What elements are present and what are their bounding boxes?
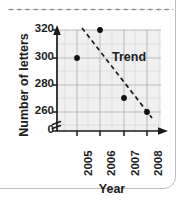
y-axis-title: Number of letters [17, 33, 31, 137]
chart-card: 320 300 280 260 0 2005 2006 2007 2008 Tr… [0, 0, 190, 205]
x-axis-arrowhead [158, 127, 168, 135]
x-tick-label: 2008 [152, 150, 164, 176]
data-point [74, 55, 80, 61]
data-point [121, 95, 127, 101]
plot-background [57, 30, 161, 131]
y-tick-label: 280 [35, 77, 54, 89]
y-tick-label: 300 [35, 50, 54, 62]
data-point [97, 27, 103, 33]
x-tick-label: 2007 [129, 150, 141, 176]
x-tick-label: 2006 [105, 150, 117, 176]
data-point [144, 109, 150, 115]
y-tick-label: 320 [35, 22, 54, 34]
x-tick-label: 2005 [82, 150, 94, 176]
x-axis-title: Year [60, 182, 164, 196]
y-tick-label: 0 [48, 123, 54, 135]
trend-line-label: Trend [112, 50, 146, 64]
scatter-chart: 320 300 280 260 0 2005 2006 2007 2008 Tr… [0, 0, 190, 205]
y-tick-label: 260 [35, 104, 54, 116]
